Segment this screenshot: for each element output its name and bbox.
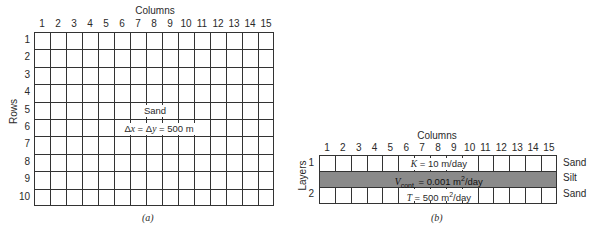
caption-b: (b) bbox=[431, 212, 443, 223]
grid-line-horizontal bbox=[35, 102, 273, 103]
column-number: 3 bbox=[66, 18, 82, 29]
column-number: 4 bbox=[367, 142, 383, 153]
column-number: 2 bbox=[335, 142, 351, 153]
grid-line-horizontal bbox=[35, 189, 273, 190]
column-number: 14 bbox=[242, 18, 258, 29]
row-number: 7 bbox=[16, 138, 30, 149]
column-number: 12 bbox=[210, 18, 226, 29]
column-number: 11 bbox=[478, 142, 494, 153]
grid-line-vertical bbox=[398, 156, 399, 172]
grid-line-vertical bbox=[367, 187, 368, 203]
grid-line-horizontal bbox=[35, 84, 273, 85]
column-number: 8 bbox=[430, 142, 446, 153]
column-number: 13 bbox=[226, 18, 242, 29]
caption-a: (a) bbox=[142, 212, 154, 223]
grid-line-horizontal bbox=[35, 119, 273, 120]
grid-line-horizontal bbox=[320, 171, 556, 172]
grid-line-vertical bbox=[541, 187, 542, 203]
grid-a: SandΔx = Δy = 500 m bbox=[34, 32, 274, 206]
column-number: 9 bbox=[162, 18, 178, 29]
rows-axis-label: Rows bbox=[8, 97, 19, 127]
column-number: 1 bbox=[34, 18, 50, 29]
grid-line-horizontal bbox=[35, 67, 273, 68]
side-label-silt: Silt bbox=[563, 172, 577, 183]
grid-line-vertical bbox=[382, 187, 383, 203]
grid-line-vertical bbox=[541, 156, 542, 172]
grid-line-vertical bbox=[478, 156, 479, 172]
column-number: 1 bbox=[319, 142, 335, 153]
grid-line-vertical bbox=[493, 187, 494, 203]
spacing-label: Δx = Δy = 500 m bbox=[116, 123, 202, 135]
row-number: 2 bbox=[16, 51, 30, 62]
grid-line-horizontal bbox=[35, 171, 273, 172]
grid-line-vertical bbox=[367, 156, 368, 172]
grid-line-horizontal bbox=[35, 49, 273, 50]
column-number: 11 bbox=[194, 18, 210, 29]
column-number: 15 bbox=[258, 18, 274, 29]
layer-number-2: 2 bbox=[300, 188, 314, 199]
grid-line-vertical bbox=[525, 187, 526, 203]
column-number: 8 bbox=[146, 18, 162, 29]
column-number: 13 bbox=[509, 142, 525, 153]
layer1-conductivity-label: K = 10 m/day bbox=[400, 158, 477, 170]
column-number: 5 bbox=[382, 142, 398, 153]
row-number: 10 bbox=[16, 191, 30, 202]
row-number: 3 bbox=[16, 69, 30, 80]
column-number: 14 bbox=[525, 142, 541, 153]
row-number: 9 bbox=[16, 173, 30, 184]
column-number: 10 bbox=[462, 142, 478, 153]
side-label-sand-bottom: Sand bbox=[563, 188, 586, 199]
grid-line-vertical bbox=[335, 187, 336, 203]
grid-line-vertical bbox=[493, 156, 494, 172]
grid-line-vertical bbox=[478, 187, 479, 203]
column-number: 15 bbox=[541, 142, 557, 153]
grid-line-vertical bbox=[382, 156, 383, 172]
grid-line-vertical bbox=[525, 156, 526, 172]
column-number: 7 bbox=[414, 142, 430, 153]
grid-line-vertical bbox=[351, 187, 352, 203]
column-number: 7 bbox=[130, 18, 146, 29]
grid-line-vertical bbox=[351, 156, 352, 172]
layer2-transmissivity-label: T = 500 m2/day bbox=[400, 189, 477, 201]
row-number: 8 bbox=[16, 156, 30, 167]
column-number: 2 bbox=[50, 18, 66, 29]
column-number: 12 bbox=[493, 142, 509, 153]
grid-line-vertical bbox=[509, 156, 510, 172]
column-number: 10 bbox=[178, 18, 194, 29]
side-label-sand-top: Sand bbox=[563, 157, 586, 168]
grid-line-horizontal bbox=[35, 136, 273, 137]
layer-number-1: 1 bbox=[300, 157, 314, 168]
column-number: 3 bbox=[351, 142, 367, 153]
grid-line-vertical bbox=[509, 187, 510, 203]
columns-title-a: Columns bbox=[120, 5, 190, 16]
column-number: 6 bbox=[114, 18, 130, 29]
silt-vcont-label: Vcont. = 0.001 m2/day bbox=[383, 173, 494, 185]
grid-line-horizontal bbox=[35, 154, 273, 155]
row-number: 1 bbox=[16, 34, 30, 45]
material-label-sand: Sand bbox=[133, 105, 177, 117]
column-number: 6 bbox=[398, 142, 414, 153]
grid-line-horizontal bbox=[320, 187, 556, 188]
columns-title-b: Columns bbox=[402, 130, 472, 141]
column-number: 4 bbox=[82, 18, 98, 29]
grid-b: K = 10 m/dayVcont. = 0.001 m2/dayT = 500… bbox=[319, 155, 557, 204]
grid-line-vertical bbox=[398, 187, 399, 203]
column-number: 5 bbox=[98, 18, 114, 29]
column-number: 9 bbox=[446, 142, 462, 153]
grid-line-vertical bbox=[335, 156, 336, 172]
